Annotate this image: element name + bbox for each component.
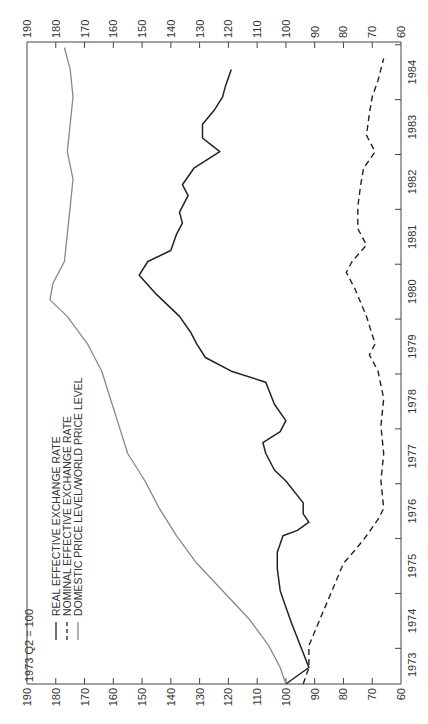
time-axis: 1973197419751976197719781979198019811982…	[395, 45, 418, 677]
value-axis-bottom: 19018017016015014013012011010090807060	[21, 678, 407, 706]
year-tick-label: 1973	[406, 653, 418, 677]
value-axis-top: 19018017016015014013012011010090807060	[21, 20, 407, 48]
year-tick-label: 1984	[406, 60, 418, 84]
value-tick-label: 160	[107, 688, 119, 706]
value-tick-label: 100	[280, 20, 292, 38]
unit-label: 1973 Q2 = 100	[23, 609, 35, 682]
year-tick-label: 1982	[406, 170, 418, 194]
value-tick-label: 150	[136, 688, 148, 706]
value-tick-label: 100	[280, 688, 292, 706]
value-tick-label: 90	[309, 26, 321, 38]
year-tick-label: 1981	[406, 225, 418, 249]
legend-label: DOMESTIC PRICE LEVEL/WORLD PRICE LEVEL	[72, 377, 84, 616]
price-level-ratio-line	[50, 48, 286, 685]
value-tick-label: 150	[136, 20, 148, 38]
value-tick-label: 190	[21, 20, 33, 38]
value-tick-label: 130	[194, 688, 206, 706]
year-tick-label: 1974	[406, 609, 418, 633]
value-tick-label: 110	[251, 688, 263, 706]
year-tick-label: 1976	[406, 499, 418, 523]
rotated-line-chart: 19018017016015014013012011010090807060 1…	[0, 0, 428, 724]
value-tick-label: 170	[79, 20, 91, 38]
year-tick-label: 1983	[406, 115, 418, 139]
value-tick-label: 140	[165, 20, 177, 38]
value-tick-label: 130	[194, 20, 206, 38]
value-tick-label: 190	[21, 688, 33, 706]
value-tick-label: 60	[395, 26, 407, 38]
nominal-effective-exchange-rate-line	[303, 59, 384, 685]
value-tick-label: 90	[309, 688, 321, 700]
legend: REAL EFFECTIVE EXCHANGE RATENOMINAL EFFE…	[50, 377, 84, 640]
value-tick-label: 120	[222, 20, 234, 38]
year-tick-label: 1979	[406, 334, 418, 358]
value-tick-label: 120	[222, 688, 234, 706]
value-tick-label: 170	[79, 688, 91, 706]
value-tick-label: 180	[50, 20, 62, 38]
year-tick-label: 1977	[406, 444, 418, 468]
value-tick-label: 180	[50, 688, 62, 706]
series-lines	[50, 48, 384, 685]
year-tick-label: 1978	[406, 389, 418, 413]
value-tick-label: 70	[366, 26, 378, 38]
year-tick-label: 1980	[406, 279, 418, 303]
value-tick-label: 60	[395, 688, 407, 700]
value-tick-label: 80	[337, 688, 349, 700]
value-tick-label: 70	[366, 688, 378, 700]
value-tick-label: 140	[165, 688, 177, 706]
value-tick-label: 160	[107, 20, 119, 38]
year-tick-label: 1975	[406, 554, 418, 578]
value-tick-label: 110	[251, 20, 263, 38]
value-tick-label: 80	[337, 26, 349, 38]
